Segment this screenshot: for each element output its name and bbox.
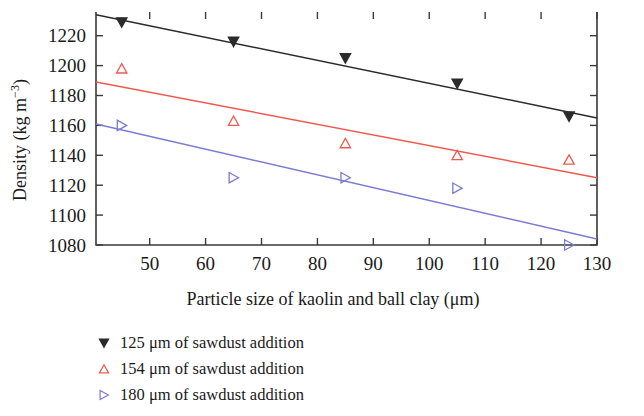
x-tick-label-90: 90 xyxy=(364,253,383,274)
y-tick-label-1080: 1080 xyxy=(48,235,86,256)
y-axis-title: Density (kg m−3) xyxy=(8,79,31,201)
x-tick-label-60: 60 xyxy=(196,253,215,274)
data-point-s1-3 xyxy=(340,54,350,63)
y-tick-label-1200: 1200 xyxy=(48,55,86,76)
density-vs-particle-size-chart: 1080110011201140116011801200122050607080… xyxy=(0,0,644,416)
axes xyxy=(96,12,597,245)
x-axis-title: Particle size of kaolin and ball clay (μ… xyxy=(186,289,479,310)
legend-label-1: 125 μm of sawdust addition xyxy=(120,333,304,352)
data-point-s1-1 xyxy=(117,18,127,27)
y-tick-label-1120: 1120 xyxy=(49,175,86,196)
y-tick-label-1100: 1100 xyxy=(49,205,86,226)
chart-svg: 1080110011201140116011801200122050607080… xyxy=(0,0,644,416)
triangle-up-icon xyxy=(99,365,108,373)
data-point-s3-4 xyxy=(453,183,462,193)
data-point-s2-5 xyxy=(564,155,574,164)
legend-item-2: 154 μm of sawdust addition xyxy=(99,359,304,378)
data-point-s2-2 xyxy=(228,116,238,125)
legend-label-3: 180 μm of sawdust addition xyxy=(120,385,304,404)
trend-line-1 xyxy=(96,15,597,118)
trend-line-2 xyxy=(96,82,597,178)
series-1 xyxy=(96,15,597,122)
data-point-s2-3 xyxy=(340,138,350,147)
y-tick-label-1140: 1140 xyxy=(49,145,86,166)
data-point-s1-5 xyxy=(564,112,574,121)
data-series xyxy=(96,15,597,250)
y-tick-label-1160: 1160 xyxy=(49,115,86,136)
plot-frame xyxy=(96,12,597,245)
x-tick-label-100: 100 xyxy=(415,253,444,274)
triangle-right-icon xyxy=(100,390,108,399)
x-tick-label-130: 130 xyxy=(583,253,612,274)
legend-item-3: 180 μm of sawdust addition xyxy=(100,385,304,404)
series-2 xyxy=(96,64,597,178)
x-tick-label-50: 50 xyxy=(140,253,159,274)
legend: 125 μm of sawdust addition154 μm of sawd… xyxy=(99,333,304,404)
triangle-down-icon xyxy=(99,339,108,347)
x-tick-label-120: 120 xyxy=(527,253,556,274)
x-tick-label-70: 70 xyxy=(252,253,271,274)
x-tick-label-110: 110 xyxy=(471,253,499,274)
svg-text:Density (kg m−3): Density (kg m−3) xyxy=(8,79,31,201)
data-point-s3-2 xyxy=(229,173,238,183)
x-tick-label-80: 80 xyxy=(308,253,327,274)
legend-item-1: 125 μm of sawdust addition xyxy=(99,333,304,352)
legend-label-2: 154 μm of sawdust addition xyxy=(120,359,304,378)
y-tick-label-1220: 1220 xyxy=(48,25,86,46)
data-point-s1-4 xyxy=(452,79,462,88)
data-point-s2-1 xyxy=(117,64,127,73)
y-tick-label-1180: 1180 xyxy=(49,85,86,106)
